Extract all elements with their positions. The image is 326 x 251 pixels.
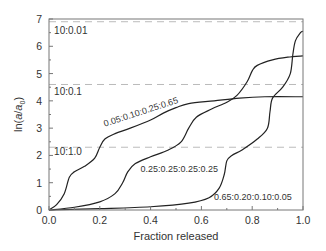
x-tick-label: 0.6 [194,214,209,226]
y-tick-label: 6 [36,40,42,52]
curves [49,31,303,210]
y-tick-label: 1 [36,177,42,189]
y-axis-title: ln(a/a0) [12,97,26,132]
y-tick-label: 0 [36,204,42,216]
x-axis-title: Fraction released [134,230,219,242]
x-tick-label: 1.0 [296,214,311,226]
series-curve [49,31,303,210]
annotation-label: 0.25:0.25:0.25:0.25 [140,164,218,174]
annotation-label: 10:0.1 [54,86,82,97]
x-tick-label: 0.4 [143,214,158,226]
x-tick-label: 0.8 [245,214,260,226]
y-tick-label: 3 [36,122,42,134]
reference-lines [49,22,303,148]
annotations: 10:0.0110:0.110:1.00.05:0.10:0.25:0.650.… [54,25,292,202]
y-tick-label: 7 [36,13,42,25]
y-tick-label: 2 [36,149,42,161]
x-tick-label: 0.2 [92,214,107,226]
x-tick-label: 0.0 [42,214,57,226]
line-chart: 0.00.20.40.60.81.001234567 10:0.0110:0.1… [0,0,326,251]
plot-frame [49,19,303,210]
y-tick-label: 4 [36,95,42,107]
annotation-label: 10:0.01 [54,25,88,36]
annotation-label: 10:1.0 [54,146,82,157]
axis-ticks [49,19,303,210]
series-curve [49,56,303,210]
y-tick-label: 5 [36,68,42,80]
annotation-label: 0.65:0.20:0.10:0.05 [214,192,292,202]
